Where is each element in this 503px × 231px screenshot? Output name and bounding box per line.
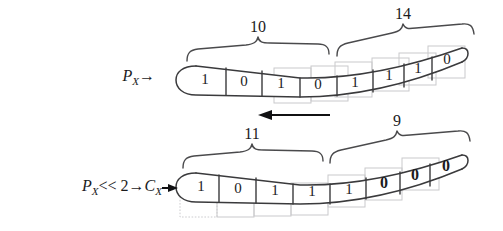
bit-cell: 0 bbox=[411, 166, 419, 183]
row-bottom: PX<< 2→CX→ bbox=[81, 112, 470, 217]
row-top-capsule-fill bbox=[176, 48, 468, 97]
row-bottom-label-arrow: → bbox=[129, 177, 145, 194]
bit-cell: 1 bbox=[201, 71, 209, 87]
shift-arrow bbox=[258, 110, 330, 120]
row-bottom-brace-label-1: 9 bbox=[393, 112, 401, 129]
row-top-label: PX→ bbox=[121, 67, 155, 87]
row-top-brace-0 bbox=[187, 37, 329, 61]
row-top-brace-label-0: 10 bbox=[250, 18, 266, 35]
bit-cell: 0 bbox=[443, 51, 451, 67]
bit-cell: 0 bbox=[380, 174, 388, 191]
row-bottom-brace-label-0: 11 bbox=[244, 125, 259, 142]
row-bottom-capsule-fill bbox=[176, 155, 468, 204]
row-bottom-label-result-base: C bbox=[145, 177, 156, 194]
row-top-label-arrow: → bbox=[139, 67, 155, 84]
row-bottom-brace-0 bbox=[183, 144, 323, 168]
bit-cell: 0 bbox=[234, 180, 242, 196]
bit-cell: 1 bbox=[351, 74, 359, 90]
bit-cell: 1 bbox=[345, 181, 353, 197]
bit-cell: 1 bbox=[277, 75, 285, 91]
row-top-label-base: P bbox=[121, 67, 132, 84]
bit-cell: 1 bbox=[414, 60, 422, 76]
bit-cell: 0 bbox=[314, 76, 322, 92]
bit-cell: 0 bbox=[240, 73, 248, 89]
row-top-brace-label-1: 14 bbox=[395, 5, 411, 22]
figure-canvas: PX→ bbox=[0, 0, 503, 231]
bit-cell: 1 bbox=[271, 182, 279, 198]
bit-cell: 1 bbox=[197, 178, 205, 194]
bit-cell: 1 bbox=[308, 183, 316, 199]
row-bottom-label-operator: << 2 bbox=[99, 177, 129, 194]
shift-arrow-head bbox=[258, 110, 272, 120]
bit-cell: 1 bbox=[385, 67, 393, 83]
row-top: PX→ bbox=[121, 5, 474, 103]
bit-cell: 0 bbox=[442, 157, 450, 174]
bit-shift-figure: PX→ bbox=[0, 0, 503, 231]
row-bottom-label-base: P bbox=[81, 177, 92, 194]
